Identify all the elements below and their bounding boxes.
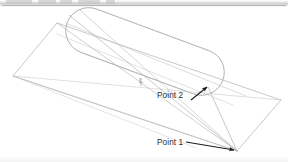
capsule-seam-lower [81, 52, 194, 94]
ray-bottom-to-top [57, 23, 237, 151]
scan-bottom-fade [0, 156, 288, 162]
scan-ghost-mark [60, 0, 72, 4]
ray-bottom-to-capsule-left-b [80, 10, 237, 151]
annotation-arrows-group [186, 87, 234, 150]
ray-left-to-right [13, 76, 281, 100]
scan-ghost-mark [78, 0, 100, 4]
ray-tube-top-edge [68, 24, 246, 96]
figure-canvas: Point 1 Point 2 L [0, 0, 288, 162]
point2-label: Point 2 [157, 91, 183, 100]
scan-horizontal-rule [2, 5, 286, 6]
geometry-line-drawing [0, 0, 288, 162]
capsule-outline-wrap [59, 1, 231, 102]
ray-tube-bottom-edge [57, 34, 233, 105]
length-label: L [139, 76, 143, 85]
ray-left-to-bottom [13, 76, 237, 151]
capsule-outline [59, 1, 231, 102]
point1-label: Point 1 [157, 138, 183, 147]
capsule-seam-upper [97, 9, 210, 51]
scan-ghost-mark [106, 0, 115, 4]
scan-ghost-mark [38, 0, 56, 4]
construction-rays-group [13, 10, 281, 151]
scan-ghost-mark [6, 0, 32, 4]
capsule-tube-group [59, 1, 231, 102]
point1-arrow [186, 142, 234, 150]
